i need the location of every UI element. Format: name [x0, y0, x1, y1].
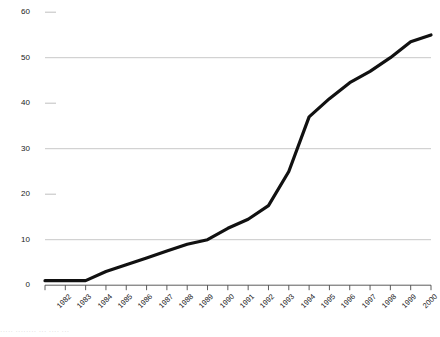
- cropped-caption-text: ····· ········ ··· ···· ···: [0, 328, 440, 337]
- y-axis-label-0: 0: [8, 281, 30, 289]
- y-axis-label-60: 60: [8, 8, 30, 16]
- data-series-line: [45, 35, 431, 281]
- gridlines: [45, 58, 431, 240]
- y-axis-label-40: 40: [8, 99, 30, 107]
- y-axis-label-30: 30: [8, 145, 30, 153]
- y-axis-label-20: 20: [8, 190, 30, 198]
- y-axis-label-50: 50: [8, 54, 30, 62]
- x-axis-tickmarks: [45, 285, 431, 290]
- chart-canvas: [0, 0, 440, 337]
- y-axis-tickmarks: [45, 12, 56, 194]
- y-axis-label-10: 10: [8, 236, 30, 244]
- line-chart: 0102030405060 19821983198419851986198719…: [0, 0, 440, 337]
